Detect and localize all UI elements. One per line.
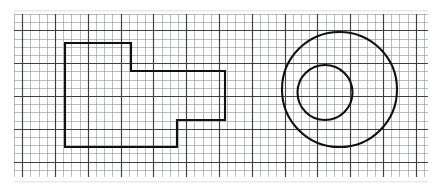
- figure-canvas: [0, 0, 437, 189]
- figure-svg: [0, 0, 437, 189]
- bottom-edge-smudge: [14, 181, 428, 182]
- top-edge-smudge: [14, 10, 428, 11]
